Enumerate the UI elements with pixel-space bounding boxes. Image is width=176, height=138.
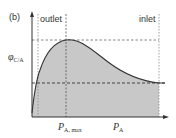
y-axis-label: φC/A xyxy=(8,51,24,63)
x-tick-label-pmax: PA, max xyxy=(57,121,82,133)
diagram: (b) outlet inlet φC/A PA, max PA xyxy=(0,0,176,138)
x-axis-label: PA xyxy=(112,121,124,133)
y-axis-arrow-icon xyxy=(30,11,34,17)
inlet-label: inlet xyxy=(139,14,156,24)
outlet-label: outlet xyxy=(40,14,63,24)
panel-label: (b) xyxy=(9,12,20,22)
x-axis-arrow-icon xyxy=(163,115,169,119)
